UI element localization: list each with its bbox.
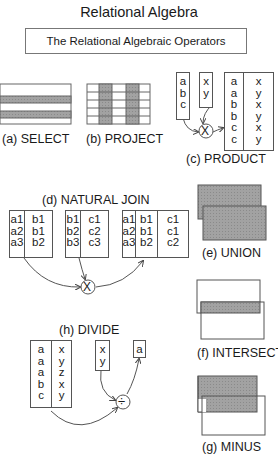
intersect-diagram [197,280,264,339]
cell: x [59,344,65,356]
cell: y [203,88,209,100]
cell: c1 [88,214,100,226]
union-diagram [198,185,266,240]
union-caption: (e) UNION [202,246,261,260]
cell: a [38,367,44,379]
cell: y [59,390,65,402]
cell: a1 [11,214,24,226]
product-input-a: a b c [176,72,190,120]
minus-caption: (g) MINUS [202,440,261,454]
cell: a3 [11,237,24,249]
cell: b [231,99,237,111]
cell: x [203,76,209,88]
cell: a3 [123,237,136,249]
cell: a [136,344,142,356]
cell: z [59,367,65,379]
product-result: a a b b c c x y x y x y [224,72,274,151]
cell: c [180,99,186,111]
product-caption: (c) PRODUCT [186,152,266,166]
cell: c [231,134,237,146]
product-operator-symbol: X [201,124,209,138]
cell: y [256,134,262,146]
product-input-b: x y [199,72,213,108]
cell: y [100,356,106,368]
divide-caption: (h) DIVIDE [59,323,119,337]
cell: x [256,76,262,88]
cell: b1 [140,214,153,226]
cell: c1 [167,214,179,226]
cell: b2 [140,237,153,249]
join-operator-symbol: X [83,280,91,294]
cell: a1 [123,214,136,226]
cell: c2 [167,237,179,249]
join-table-1: a1 a2 a3 b1 b1 b2 [9,210,53,258]
cell: c [231,122,237,134]
cell: b1 [32,214,45,226]
cell: c3 [88,237,100,249]
minus-diagram [198,376,265,435]
join-result: a1 a2 a3 b1 b1 b2 c1 c1 c2 [122,210,189,258]
join-table-2: b1 b2 b3 c1 c2 c3 [65,210,109,258]
cell: x [100,344,106,356]
select-caption: (a) SELECT [2,132,69,146]
intersect-caption: (f) INTERSECT [197,346,278,360]
cell: b1 [67,214,80,226]
cell: x [256,99,262,111]
cell: a [38,344,44,356]
divide-divisor: x y [95,340,110,371]
cell: b2 [32,237,45,249]
cell: a [180,76,186,88]
natural-join-caption: (d) NATURAL JOIN [42,193,150,207]
cell: a [231,76,237,88]
select-diagram [0,84,71,124]
cell: x [256,122,262,134]
project-diagram [87,84,150,124]
divide-operator-symbol: ÷ [118,394,125,409]
divide-result: a [133,340,146,358]
divide-dividend: a a a b c x y z x y [30,340,72,408]
cell: b3 [67,237,80,249]
project-caption: (b) PROJECT [86,132,163,146]
cell: c [38,390,44,402]
